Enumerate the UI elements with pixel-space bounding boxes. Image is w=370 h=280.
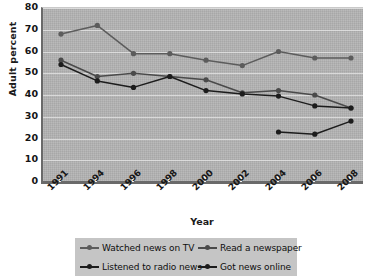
data-point-marker bbox=[167, 51, 172, 56]
data-point-marker bbox=[348, 55, 353, 60]
data-point-marker bbox=[312, 132, 317, 137]
data-point-marker bbox=[131, 85, 136, 90]
data-point-marker bbox=[167, 74, 172, 79]
legend-marker-icon bbox=[80, 243, 99, 252]
series-line bbox=[61, 65, 351, 109]
data-point-marker bbox=[240, 63, 245, 68]
data-point-marker bbox=[312, 55, 317, 60]
y-tick-label: 80 bbox=[10, 2, 38, 12]
data-point-marker bbox=[203, 88, 208, 93]
data-point-marker bbox=[95, 78, 100, 83]
data-point-marker bbox=[348, 105, 353, 110]
data-point-marker bbox=[203, 77, 208, 82]
data-point-marker bbox=[276, 129, 281, 134]
series-read-a-newspaper bbox=[58, 58, 353, 111]
series-got-news-online bbox=[276, 119, 354, 137]
series-watched-news-on-tv bbox=[58, 23, 353, 68]
series-layer bbox=[43, 8, 363, 181]
y-tick-label: 70 bbox=[10, 24, 38, 34]
chart-figure-root: Adult percent 01020304050607080 19911994… bbox=[0, 0, 370, 280]
legend-label: Watched news on TV bbox=[102, 243, 194, 253]
legend-marker-icon bbox=[198, 243, 217, 252]
x-axis-tick-labels: 199119941996199820002002200420062008 bbox=[41, 186, 363, 220]
data-point-marker bbox=[312, 92, 317, 97]
data-point-marker bbox=[131, 51, 136, 56]
line-chart: Adult percent 01020304050607080 19911994… bbox=[0, 0, 370, 232]
y-tick-label: 10 bbox=[10, 155, 38, 165]
data-point-marker bbox=[240, 91, 245, 96]
data-point-marker bbox=[58, 62, 63, 67]
data-point-marker bbox=[276, 88, 281, 93]
data-point-marker bbox=[312, 103, 317, 108]
legend-label: Read a newspaper bbox=[220, 243, 302, 253]
x-axis-title: Year bbox=[41, 216, 363, 227]
legend-label: Got news online bbox=[220, 262, 291, 272]
legend-item[interactable]: Watched news on TV bbox=[77, 238, 195, 257]
y-tick-label: 50 bbox=[10, 68, 38, 78]
y-tick-label: 20 bbox=[10, 133, 38, 143]
legend-item[interactable]: Got news online bbox=[195, 257, 299, 276]
data-point-marker bbox=[203, 58, 208, 63]
data-point-marker bbox=[348, 119, 353, 124]
data-point-marker bbox=[276, 94, 281, 99]
legend-item[interactable]: Listened to radio news bbox=[77, 257, 195, 276]
y-axis-tick-labels: 01020304050607080 bbox=[10, 0, 38, 182]
series-line bbox=[61, 60, 351, 108]
y-tick-label: 0 bbox=[10, 176, 38, 186]
data-point-marker bbox=[95, 23, 100, 28]
legend-item[interactable]: Read a newspaper bbox=[195, 238, 299, 257]
legend-label: Listened to radio news bbox=[102, 262, 202, 272]
data-point-marker bbox=[276, 49, 281, 54]
y-tick-label: 40 bbox=[10, 89, 38, 99]
legend-marker-icon bbox=[198, 262, 217, 271]
plot-area bbox=[41, 7, 363, 181]
y-tick-label: 30 bbox=[10, 111, 38, 121]
y-tick-label: 60 bbox=[10, 46, 38, 56]
series-listened-to-radio-news bbox=[58, 62, 353, 111]
data-point-marker bbox=[131, 71, 136, 76]
chart-legend: Watched news on TVRead a newspaperListen… bbox=[75, 238, 297, 276]
legend-marker-icon bbox=[80, 262, 99, 271]
data-point-marker bbox=[58, 32, 63, 37]
